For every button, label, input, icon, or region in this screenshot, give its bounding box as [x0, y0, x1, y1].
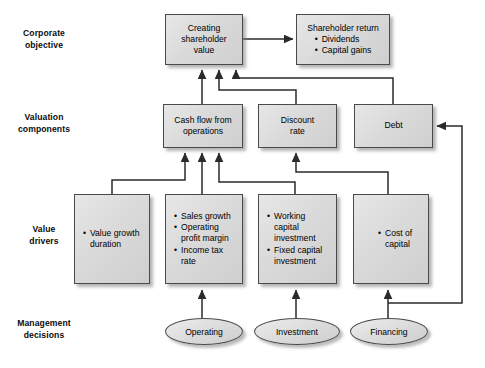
bullet-list: Dividends Capital gains: [315, 34, 372, 56]
node-cost-of-capital[interactable]: Cost of capital: [353, 194, 429, 284]
bullet-item: Fixed capital investment: [267, 245, 331, 267]
connector-costofcapital-to-discount: [296, 153, 388, 194]
bullet-item: Income tax rate: [174, 245, 237, 267]
ellipse-label: Investment: [276, 327, 318, 337]
bullet-list: Cost of capital: [378, 228, 423, 250]
row-label-valuation-components: Valuation components: [8, 112, 80, 135]
node-operating-value-drivers[interactable]: Sales growth Operating profit margin Inc…: [165, 194, 243, 284]
ellipse-label: Financing: [370, 327, 407, 337]
bullet-item: Dividends: [315, 34, 372, 45]
bullet-item: Value growth duration: [83, 228, 144, 250]
node-heading: Shareholder return: [302, 23, 384, 34]
node-investment-value-drivers[interactable]: Working capital investment Fixed capital…: [258, 194, 337, 284]
bullet-list: Sales growth Operating profit margin Inc…: [174, 211, 237, 267]
bullet-item: Working capital investment: [267, 211, 331, 245]
node-value-growth-duration[interactable]: Value growth duration: [74, 194, 150, 284]
node-cash-flow-from-operations[interactable]: Cash flow from operations: [163, 104, 243, 148]
ellipse-label: Operating: [185, 327, 223, 337]
node-line: Discount: [264, 115, 331, 126]
row-label-value-drivers: Value drivers: [8, 224, 80, 247]
bullet-item: Operating profit margin: [174, 222, 237, 244]
connector-debt-to-value: [236, 70, 393, 104]
node-debt[interactable]: Debt: [354, 104, 433, 148]
node-creating-shareholder-value[interactable]: Creating shareholder value: [165, 14, 243, 65]
node-financing-decision[interactable]: Financing: [350, 318, 428, 345]
value-creation-diagram: Corporate objective Valuation components…: [0, 0, 485, 368]
bullet-item: Cost of capital: [378, 228, 423, 250]
connector-valuegrowth-to-cashflow: [112, 153, 185, 194]
node-investment-decision[interactable]: Investment: [254, 318, 340, 345]
bullet-item: Sales growth: [174, 211, 237, 222]
node-discount-rate[interactable]: Discount rate: [258, 104, 337, 148]
node-shareholder-return[interactable]: Shareholder return Dividends Capital gai…: [296, 14, 390, 65]
bullet-item: Capital gains: [315, 45, 372, 56]
node-line: Debt: [360, 120, 427, 131]
row-label-management-decisions: Management decisions: [2, 318, 86, 341]
connector-investmentdrivers-to-cashflow: [219, 153, 295, 194]
bullet-list: Working capital investment Fixed capital…: [267, 211, 331, 267]
row-label-corporate-objective: Corporate objective: [8, 28, 80, 51]
connector-discount-to-value: [219, 70, 296, 104]
node-line: Cash flow from: [169, 115, 237, 126]
node-line: shareholder: [171, 34, 237, 45]
node-line: rate: [264, 126, 331, 137]
node-operating-decision[interactable]: Operating: [165, 318, 243, 345]
node-line: Creating: [171, 23, 237, 34]
node-line: operations: [169, 126, 237, 137]
bullet-list: Value growth duration: [83, 228, 144, 250]
node-line: value: [171, 45, 237, 56]
